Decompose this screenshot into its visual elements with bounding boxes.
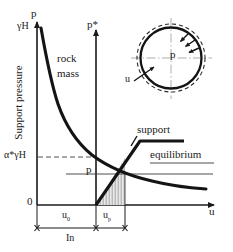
- p-star-axis-symbol: p*: [87, 19, 98, 30]
- alpha-gamma-h-label: α*γH: [4, 150, 26, 160]
- rock-mass-label-line1: rock: [57, 53, 77, 64]
- u0-dimension-label: u0: [62, 210, 70, 222]
- y-axis-title: Support pressure: [13, 57, 24, 149]
- origin-label: 0: [27, 196, 33, 207]
- rock-mass-label-line2: mass: [57, 68, 79, 79]
- up-subscript: p: [108, 216, 111, 222]
- p-axis-symbol: p: [31, 8, 37, 19]
- inset-pressure-label: p: [170, 49, 176, 60]
- gamma-h-label: γH: [17, 21, 29, 31]
- in-label: In: [66, 233, 74, 243]
- ground-reaction-curve-figure: Support pressure p γH α*γH 0 p* p u rock…: [0, 0, 233, 252]
- support-label: support: [137, 124, 170, 135]
- up-dimension-label: up: [103, 210, 111, 222]
- equilibrium-pressure-label: p: [86, 164, 92, 175]
- equilibrium-label: equilibrium: [150, 149, 201, 160]
- dimension-bar: [35, 205, 128, 231]
- u0-subscript: 0: [67, 216, 70, 222]
- inset-displacement-label: u: [125, 74, 130, 84]
- figure-canvas: [0, 0, 233, 252]
- u-axis-symbol: u: [209, 206, 215, 217]
